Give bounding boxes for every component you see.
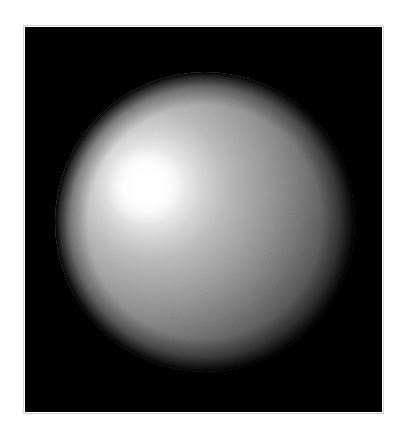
sphere-rendering	[25, 27, 382, 412]
render-canvas	[25, 27, 382, 412]
figure-root	[0, 0, 405, 433]
limb-darkening	[55, 72, 355, 372]
